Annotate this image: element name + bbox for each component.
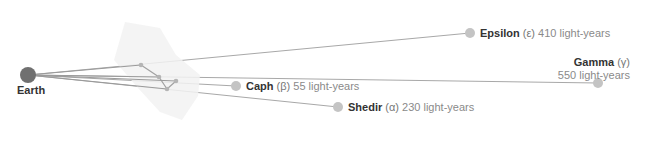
star-icon (139, 63, 144, 68)
gamma-greek: (γ) (617, 56, 630, 68)
star-icon (465, 28, 475, 38)
caph-name: Caph (246, 80, 274, 92)
star-icon (157, 75, 162, 80)
star-icon (174, 79, 179, 84)
epsilon-greek: (ε) (523, 27, 535, 39)
sight-lines (28, 33, 598, 107)
shedir-greek: (α) (385, 101, 399, 113)
caph-label: Caph (β) 55 light-years (246, 80, 359, 93)
caph-greek: (β) (277, 80, 291, 92)
gamma-name: Gamma (574, 56, 614, 68)
earth-icon (20, 67, 36, 83)
epsilon-distance: 410 light-years (538, 27, 610, 39)
epsilon-name: Epsilon (480, 27, 520, 39)
earth-label: Earth (17, 84, 45, 96)
star-icon (231, 81, 241, 91)
star-icon (333, 102, 343, 112)
gamma-distance: 550 light-years (546, 69, 630, 82)
caph-distance: 55 light-years (293, 80, 359, 92)
star-icon (165, 87, 170, 92)
constellation-region (114, 22, 200, 120)
shedir-distance: 230 light-years (402, 101, 474, 113)
shedir-name: Shedir (348, 101, 382, 113)
shedir-label: Shedir (α) 230 light-years (348, 101, 474, 114)
epsilon-label: Epsilon (ε) 410 light-years (480, 27, 610, 40)
gamma-label: Gamma (γ) 550 light-years (546, 56, 630, 82)
